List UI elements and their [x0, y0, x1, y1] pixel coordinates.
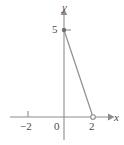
origin-label: 0: [54, 121, 60, 132]
line-segment: [64, 30, 93, 117]
x-axis-label: x: [114, 112, 119, 123]
y-axis-label: y: [62, 2, 67, 13]
coordinate-plane-svg: [0, 0, 124, 145]
y-tick-label-5: 5: [52, 24, 58, 35]
graph-figure: y x 5 0 2 −2: [0, 0, 124, 145]
endpoint-marker-2-0: [91, 115, 96, 120]
endpoint-marker-0-5: [62, 28, 66, 32]
x-tick-label-2: 2: [89, 121, 95, 132]
x-tick-label-neg2: −2: [20, 121, 32, 132]
